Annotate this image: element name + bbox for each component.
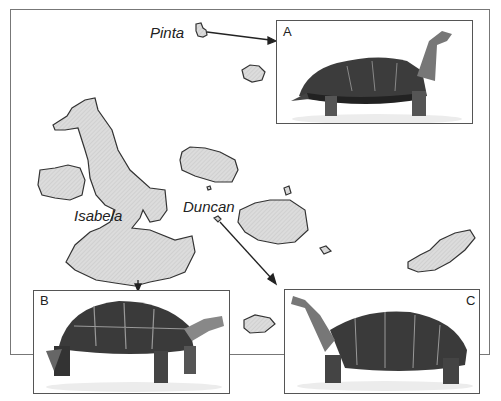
island-san-cristobal <box>408 230 475 272</box>
label-pinta: Pinta <box>150 24 184 41</box>
island-pinta <box>196 23 207 37</box>
tortoise-a-illustration <box>277 21 472 123</box>
island-santa-fe <box>320 246 331 254</box>
tortoise-panel-c: C <box>284 289 480 394</box>
tortoise-panel-a: A <box>276 20 473 124</box>
island-santa-cruz <box>238 200 308 244</box>
tortoise-c-illustration <box>285 290 479 393</box>
panel-letter-b: B <box>40 293 49 308</box>
island-baltra <box>284 186 291 195</box>
panel-letter-a: A <box>283 24 292 39</box>
island-espanola <box>244 315 275 333</box>
island-fernandina <box>38 165 85 200</box>
label-duncan: Duncan <box>183 198 235 215</box>
island-santiago <box>180 147 238 182</box>
tortoise-b-illustration <box>34 291 229 393</box>
island-duncan <box>214 216 221 222</box>
island-marchena <box>242 65 265 82</box>
island-rabida <box>207 186 211 190</box>
panel-letter-c: C <box>466 293 475 308</box>
label-isabela: Isabela <box>74 207 122 224</box>
tortoise-panel-b: B <box>33 290 230 394</box>
